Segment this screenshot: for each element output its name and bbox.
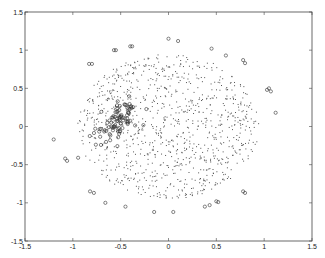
data-point: [158, 62, 159, 63]
data-point: [148, 59, 149, 60]
data-point: [99, 155, 100, 156]
data-point: [178, 165, 179, 166]
data-point: [133, 73, 134, 74]
data-point: [208, 148, 209, 149]
data-point: [113, 90, 114, 91]
data-point: [234, 125, 235, 126]
data-point: [191, 102, 192, 103]
data-point: [176, 153, 177, 154]
data-point: [208, 96, 209, 97]
data-point: [118, 119, 121, 122]
data-point: [135, 68, 136, 69]
data-point: [106, 177, 107, 178]
data-point: [167, 37, 170, 40]
data-point: [186, 57, 187, 58]
data-point: [250, 130, 251, 131]
data-point: [193, 143, 194, 144]
data-point: [191, 188, 192, 189]
data-point: [138, 131, 139, 132]
data-point: [159, 197, 160, 198]
data-point: [191, 192, 192, 193]
data-point: [193, 105, 194, 106]
data-point: [157, 173, 158, 174]
data-point: [232, 146, 233, 147]
data-point: [229, 140, 230, 141]
data-point: [166, 197, 167, 198]
data-point: [141, 75, 142, 76]
data-point: [197, 103, 198, 104]
data-point: [253, 123, 254, 124]
data-point: [203, 169, 204, 170]
data-point: [231, 113, 232, 114]
y-tick-label: -1.5: [11, 238, 23, 245]
data-point: [77, 123, 78, 124]
data-point: [125, 123, 126, 124]
data-point: [109, 179, 110, 180]
data-point: [139, 65, 140, 66]
data-point: [214, 158, 215, 159]
data-point: [189, 158, 190, 159]
data-point: [106, 99, 107, 100]
data-point: [180, 169, 181, 170]
data-point: [175, 120, 176, 121]
data-point: [202, 94, 203, 95]
data-point: [107, 90, 108, 91]
data-point: [220, 120, 221, 121]
data-point: [177, 121, 178, 122]
data-point: [104, 75, 105, 76]
data-point: [152, 172, 153, 173]
data-point: [220, 143, 221, 144]
data-point: [163, 122, 164, 123]
data-point: [209, 132, 210, 133]
data-point: [220, 163, 221, 164]
data-point: [228, 158, 229, 159]
data-point: [125, 75, 126, 76]
data-point: [168, 144, 169, 145]
data-point: [207, 137, 208, 138]
data-point: [153, 66, 154, 67]
data-point: [87, 110, 88, 111]
data-point: [83, 143, 84, 144]
data-point: [247, 121, 248, 122]
data-point: [226, 99, 227, 100]
data-point: [218, 82, 219, 83]
data-point: [219, 80, 220, 81]
data-point: [258, 123, 259, 124]
data-point: [156, 78, 157, 79]
data-point: [236, 135, 237, 136]
data-point: [136, 79, 137, 80]
data-point: [175, 173, 176, 174]
data-point: [149, 65, 150, 66]
series-cluster: [77, 95, 148, 160]
data-point: [251, 134, 252, 135]
data-point: [89, 98, 90, 99]
data-point: [106, 148, 107, 149]
data-point: [140, 166, 141, 167]
data-point: [198, 66, 199, 67]
data-point: [206, 118, 207, 119]
data-point: [195, 157, 196, 158]
data-point: [221, 124, 222, 125]
data-point: [157, 193, 158, 194]
data-point: [239, 154, 240, 155]
data-point: [186, 61, 187, 62]
data-point: [218, 114, 219, 115]
data-point: [146, 169, 147, 170]
data-point: [127, 132, 128, 133]
data-point: [239, 120, 240, 121]
data-point: [143, 96, 144, 97]
data-point: [177, 123, 178, 124]
data-point: [177, 144, 178, 145]
data-point: [201, 121, 202, 122]
data-point: [231, 90, 232, 91]
data-point: [172, 75, 173, 76]
data-point: [142, 128, 143, 129]
data-point: [84, 111, 85, 112]
data-point: [210, 104, 211, 105]
data-point: [175, 166, 176, 167]
data-point: [235, 112, 236, 113]
series-outliers: [52, 37, 277, 213]
data-point: [116, 81, 117, 82]
data-point: [118, 75, 119, 76]
data-point: [227, 178, 228, 179]
